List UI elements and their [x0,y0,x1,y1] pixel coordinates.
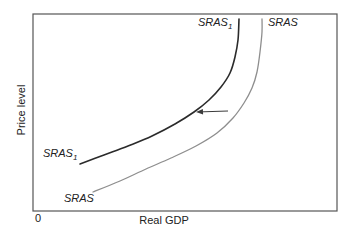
sras-bottom-base: SRAS [64,192,94,204]
sras-top-base: SRAS [268,16,298,28]
origin-label: 0 [35,213,41,224]
shift-arrow-shaft [203,111,228,112]
sras1-curve-label-bottom: SRAS1 [43,148,77,159]
sras-curve-label-top: SRAS [268,17,298,28]
sras1-bottom-subscript: 1 [73,153,77,162]
sras1-bottom-base: SRAS [43,147,73,159]
y-axis-label: Price level [16,85,27,136]
plot-box-border [33,14,337,211]
sras-shift-chart: Price level Real GDP 0 SRAS1 SRAS SRAS1 … [0,0,348,239]
sras1-curve-label-top: SRAS1 [198,17,232,28]
x-axis-label: Real GDP [139,215,189,226]
sras1-top-subscript: 1 [228,22,232,31]
sras-curve-label-bottom: SRAS [64,193,94,204]
plot-canvas [0,0,348,239]
sras1-curve [80,19,239,164]
sras1-top-base: SRAS [198,16,228,28]
